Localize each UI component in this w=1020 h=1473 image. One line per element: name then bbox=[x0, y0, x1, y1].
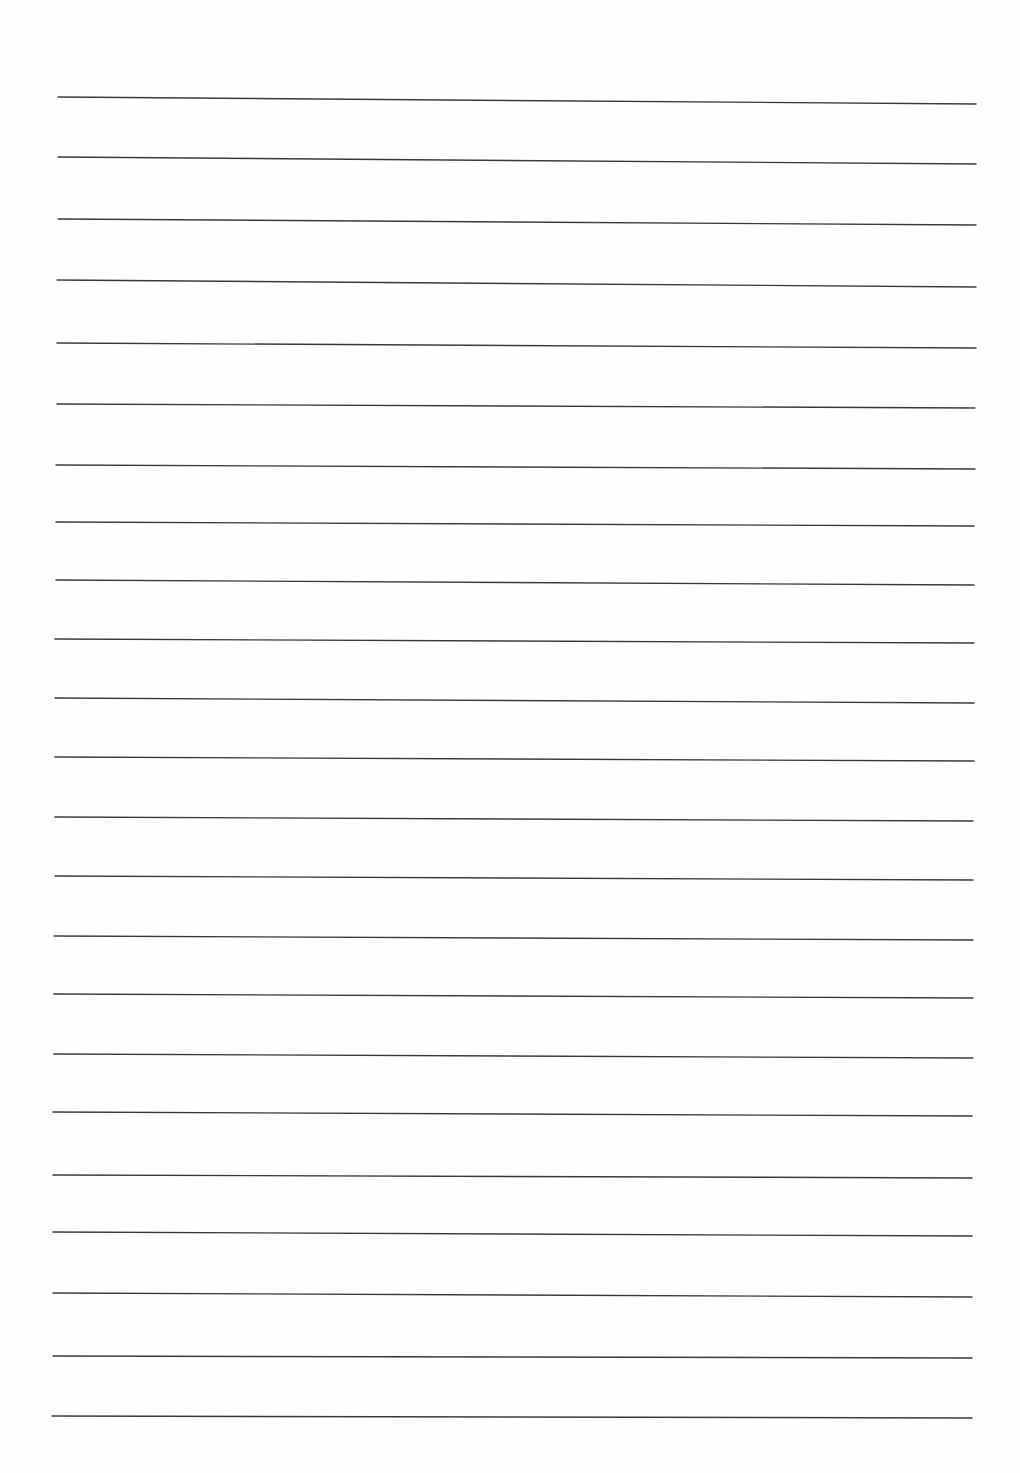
ruled-line bbox=[57, 280, 976, 287]
ruled-line bbox=[54, 1054, 973, 1058]
ruled-line bbox=[54, 994, 973, 998]
ruled-line bbox=[56, 465, 975, 469]
ruled-line bbox=[53, 1112, 972, 1116]
ruled-line bbox=[53, 1232, 972, 1236]
ruled-line bbox=[53, 1356, 972, 1358]
ruled-line bbox=[52, 1416, 972, 1418]
ruled-line bbox=[58, 219, 976, 225]
ruled-line bbox=[55, 817, 973, 821]
ruled-line bbox=[57, 343, 976, 348]
ruled-line bbox=[57, 404, 975, 408]
ruled-line bbox=[53, 1293, 972, 1297]
ruled-line bbox=[58, 97, 976, 104]
ruled-line bbox=[54, 936, 973, 940]
ruled-line bbox=[55, 698, 974, 703]
ruled-lines bbox=[0, 0, 1020, 1473]
ruled-line bbox=[53, 1175, 972, 1178]
ruled-line bbox=[55, 876, 973, 880]
ruled-line bbox=[58, 157, 976, 164]
ruled-line bbox=[56, 522, 974, 526]
ruled-line bbox=[56, 580, 974, 585]
ruled-line bbox=[55, 639, 974, 643]
ruled-line bbox=[55, 757, 974, 761]
lined-paper-page bbox=[0, 0, 1020, 1473]
